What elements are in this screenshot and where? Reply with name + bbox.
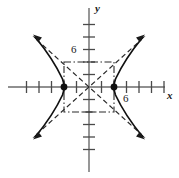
vertex-right-dot bbox=[111, 84, 118, 91]
plot-canvas bbox=[0, 0, 179, 178]
vertex-left-dot bbox=[61, 84, 68, 91]
y-axis-label: y bbox=[95, 3, 100, 14]
x-axis-label: x bbox=[167, 90, 173, 101]
x-axis-tick-label-6: 6 bbox=[123, 93, 129, 104]
hyperbola-graph-figure: y x 6 6 bbox=[0, 0, 179, 178]
y-axis-tick-label-6: 6 bbox=[71, 44, 77, 55]
